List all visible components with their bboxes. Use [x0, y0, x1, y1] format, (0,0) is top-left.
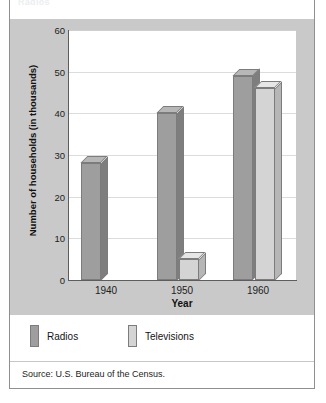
y-tick-label: 0 — [13, 275, 65, 286]
legend-label: Radios — [47, 331, 78, 342]
bar-front-face — [81, 163, 101, 280]
figure-title-cutoff: Radios — [18, 0, 50, 7]
chart-panel: 0102030405060 Number of households (in t… — [10, 19, 314, 315]
y-axis-label: Number of households (in thousands) — [27, 51, 38, 251]
bar-front-face — [255, 88, 275, 280]
bar-side-face — [101, 156, 108, 280]
legend-swatch-fill — [128, 325, 137, 347]
bar-radios-1950 — [157, 113, 177, 280]
chart-figure: Radios 0102030405060 Number of household… — [0, 0, 326, 403]
y-tick-label: 40 — [13, 108, 65, 119]
x-tick-label: 1960 — [223, 285, 293, 296]
title-strip: Radios — [10, 0, 314, 17]
plot-area — [68, 30, 296, 280]
bar-radios-1960 — [233, 76, 253, 280]
y-tick-label: 30 — [13, 150, 65, 161]
x-tick-label: 1950 — [147, 285, 217, 296]
y-tick-label: 20 — [13, 191, 65, 202]
bar-front-face — [233, 76, 253, 280]
y-axis-ticks: 0102030405060 — [10, 30, 65, 281]
x-axis-line — [68, 280, 297, 281]
legend-item-televisions: Televisions — [128, 325, 194, 347]
x-axis-label: Year — [68, 298, 296, 309]
source-note: Source: U.S. Bureau of the Census. — [22, 369, 165, 379]
gridline — [69, 72, 296, 73]
bar-radios-1940 — [81, 163, 101, 280]
y-tick-label: 10 — [13, 233, 65, 244]
legend-swatch — [30, 325, 39, 347]
legend-divider — [10, 361, 314, 362]
bar-televisions-1950 — [179, 259, 199, 280]
bar-front-face — [157, 113, 177, 280]
bar-televisions-1960 — [255, 88, 275, 280]
x-tick-label: 1940 — [71, 285, 141, 296]
legend-item-radios: Radios — [30, 325, 78, 347]
bar-side-face — [275, 81, 282, 280]
gridline — [69, 30, 296, 31]
legend-swatch — [128, 325, 137, 347]
y-axis-line — [68, 30, 69, 281]
chart-legend: RadiosTelevisions — [10, 315, 314, 359]
bar-front-face — [179, 259, 199, 280]
legend-label: Televisions — [145, 331, 194, 342]
y-tick-label: 60 — [13, 25, 65, 36]
legend-swatch-fill — [30, 325, 39, 347]
y-tick-label: 50 — [13, 66, 65, 77]
